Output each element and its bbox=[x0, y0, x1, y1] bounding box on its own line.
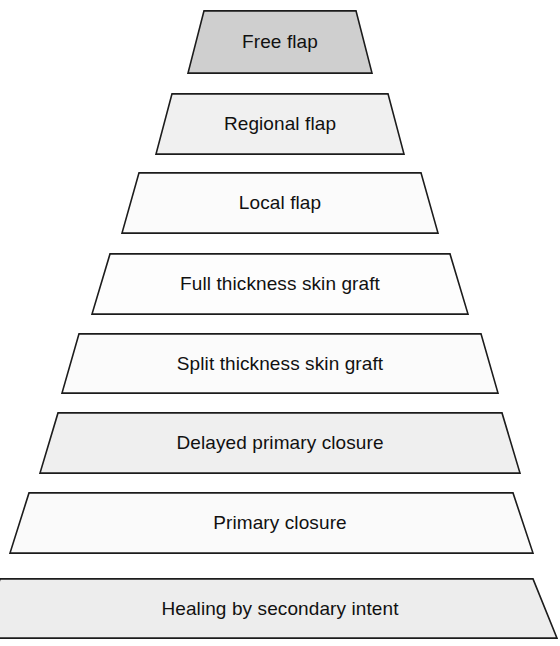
level-shape-2 bbox=[0, 93, 560, 155]
pyramid-level-2: Regional flap bbox=[0, 93, 560, 155]
trapezoid-4 bbox=[92, 254, 468, 314]
trapezoid-6 bbox=[40, 413, 520, 473]
trapezoid-1 bbox=[188, 11, 372, 73]
level-shape-7 bbox=[0, 492, 560, 554]
pyramid-level-8: Healing by secondary intent bbox=[0, 578, 560, 639]
level-shape-3 bbox=[0, 172, 560, 234]
reconstructive-ladder-pyramid: Free flapRegional flapLocal flapFull thi… bbox=[0, 0, 560, 646]
trapezoid-3 bbox=[122, 173, 438, 233]
pyramid-level-6: Delayed primary closure bbox=[0, 412, 560, 474]
trapezoid-2 bbox=[156, 94, 404, 154]
level-shape-6 bbox=[0, 412, 560, 474]
level-shape-8 bbox=[0, 578, 560, 639]
pyramid-level-7: Primary closure bbox=[0, 492, 560, 554]
pyramid-level-1: Free flap bbox=[0, 10, 560, 74]
trapezoid-7 bbox=[10, 493, 533, 553]
pyramid-level-4: Full thickness skin graft bbox=[0, 253, 560, 315]
level-shape-4 bbox=[0, 253, 560, 315]
level-shape-1 bbox=[0, 10, 560, 74]
pyramid-level-3: Local flap bbox=[0, 172, 560, 234]
level-shape-5 bbox=[0, 333, 560, 394]
pyramid-level-5: Split thickness skin graft bbox=[0, 333, 560, 394]
trapezoid-5 bbox=[62, 334, 498, 393]
trapezoid-8 bbox=[0, 579, 557, 638]
